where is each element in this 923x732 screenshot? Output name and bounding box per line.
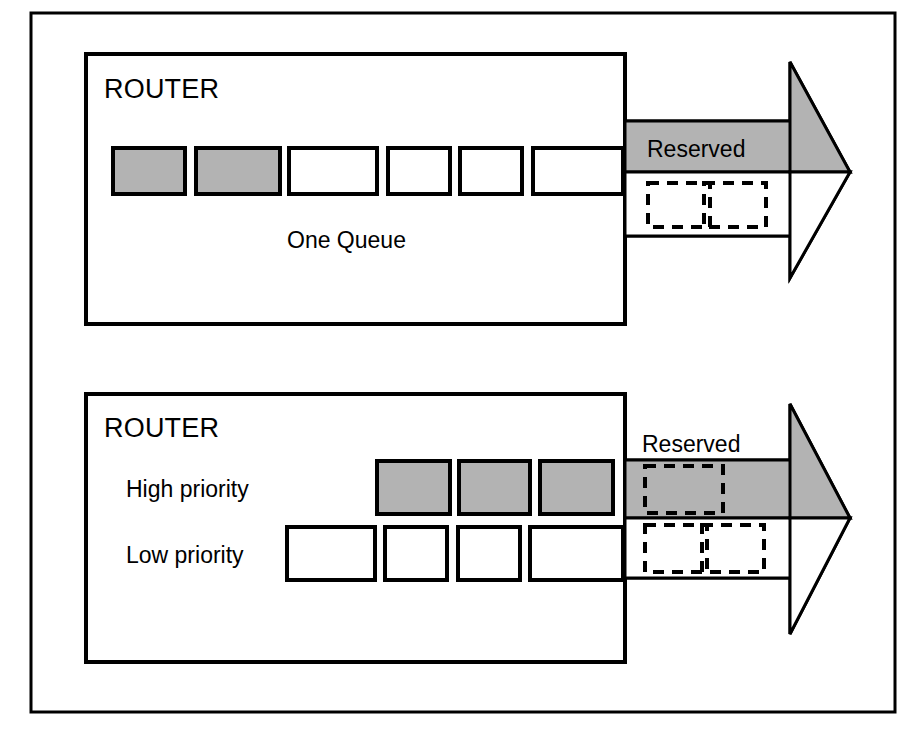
top-packet-0 xyxy=(113,148,185,194)
top-router-title: ROUTER xyxy=(104,74,219,104)
top-packet-1 xyxy=(196,148,280,194)
bottom-reserved-label: Reserved xyxy=(642,431,740,457)
high-priority-label: High priority xyxy=(126,476,249,502)
bottom-low-packet-0 xyxy=(287,527,375,580)
bottom-high-packet-2 xyxy=(540,461,613,514)
bottom-arrow-head-upper-redraw xyxy=(790,404,850,518)
bottom-low-packet-3 xyxy=(530,527,623,580)
top-arrow-head-lower-redraw xyxy=(790,172,850,278)
top-panel: ROUTER One Queue Reserved xyxy=(86,54,850,324)
bottom-arrow-head-lower-redraw xyxy=(790,518,850,634)
bottom-panel: ROUTER High priority Low priority Reserv… xyxy=(86,394,850,662)
top-packet-2 xyxy=(289,148,377,194)
top-packet-4 xyxy=(460,148,522,194)
diagram-canvas: ROUTER One Queue Reserved xyxy=(0,0,923,732)
top-arrow-head-upper-redraw xyxy=(790,62,850,172)
one-queue-caption: One Queue xyxy=(287,227,406,253)
low-priority-label: Low priority xyxy=(126,542,244,568)
bottom-high-packet-0 xyxy=(377,461,450,514)
top-packet-5 xyxy=(533,148,623,194)
top-packet-3 xyxy=(388,148,450,194)
top-reserved-label: Reserved xyxy=(647,136,745,162)
bottom-router-title: ROUTER xyxy=(104,413,219,443)
bottom-reserved-band-redraw xyxy=(625,460,795,518)
bottom-low-packet-2 xyxy=(458,527,520,580)
bottom-low-packet-1 xyxy=(385,527,447,580)
bottom-high-packet-1 xyxy=(459,461,530,514)
router-reservation-diagram: ROUTER One Queue Reserved xyxy=(0,0,923,732)
